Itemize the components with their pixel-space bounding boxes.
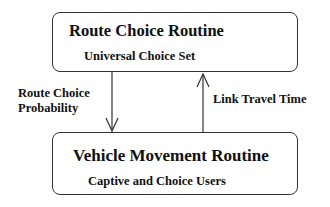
vehicle-movement-routine-box: Vehicle Movement Routine Captive and Cho…	[52, 132, 298, 195]
label-line-2: Probability	[18, 101, 90, 116]
vehicle-movement-title: Vehicle Movement Routine	[73, 146, 269, 166]
label-line-1: Route Choice	[18, 86, 90, 101]
route-choice-routine-box: Route Choice Routine Universal Choice Se…	[52, 12, 298, 72]
route-choice-probability-label: Route Choice Probability	[18, 86, 90, 116]
route-choice-title: Route Choice Routine	[69, 21, 224, 41]
route-choice-subtitle: Universal Choice Set	[84, 49, 195, 64]
link-travel-time-label: Link Travel Time	[213, 92, 307, 107]
vehicle-movement-subtitle: Captive and Choice Users	[88, 174, 226, 189]
